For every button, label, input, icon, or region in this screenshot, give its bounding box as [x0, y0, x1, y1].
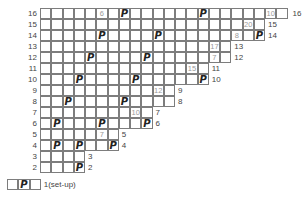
chart-cell	[153, 19, 164, 30]
row-label: 16	[293, 8, 302, 19]
chart-cell	[51, 63, 62, 74]
stitch-count: 10	[131, 109, 139, 117]
chart-cell	[96, 41, 107, 52]
row-label-left: 9	[33, 85, 37, 96]
chart-cell	[40, 129, 51, 140]
stitch-count: 7	[100, 131, 104, 139]
chart-cell	[85, 85, 96, 96]
chart-cell	[130, 52, 141, 63]
chart-cell	[209, 30, 220, 41]
chart-cell	[198, 63, 209, 74]
stitch-symbol-icon: P	[76, 141, 83, 151]
chart-cell	[141, 19, 152, 30]
chart-cell	[108, 107, 119, 118]
chart-cell	[141, 63, 152, 74]
chart-cell	[141, 74, 152, 85]
chart-cell	[175, 8, 186, 19]
chart-cell	[51, 129, 62, 140]
stitch-symbol-icon: P	[199, 75, 206, 85]
chart-cell	[108, 118, 119, 129]
stitch-symbol-icon: P	[121, 9, 128, 19]
row-label-left: 2	[33, 162, 37, 173]
chart-cell	[63, 63, 74, 74]
chart-cell	[85, 129, 96, 140]
chart-cell	[40, 30, 51, 41]
chart-cell	[40, 107, 51, 118]
chart-cell: 10	[265, 8, 276, 19]
stitch-symbol-icon: P	[76, 75, 83, 85]
chart-cell	[108, 52, 119, 63]
chart-cell	[74, 85, 85, 96]
chart-cell	[108, 19, 119, 30]
row-label-left: 16	[28, 8, 37, 19]
chart-cell	[40, 63, 51, 74]
chart-cell	[51, 96, 62, 107]
chart-cell	[175, 30, 186, 41]
chart-cell: P	[51, 140, 62, 151]
chart-cell	[74, 52, 85, 63]
chart-cell	[231, 8, 242, 19]
chart-cell	[164, 96, 175, 107]
chart-cell	[153, 8, 164, 19]
row-label-left: 4	[33, 140, 37, 151]
stitch-count: 17	[210, 43, 218, 51]
chart-cell	[209, 19, 220, 30]
row-label: 9	[178, 85, 182, 96]
chart-cell	[51, 107, 62, 118]
chart-cell: 12	[153, 85, 164, 96]
chart-cell	[186, 41, 197, 52]
row-label-left: 15	[28, 19, 37, 30]
chart-cell	[40, 118, 51, 129]
chart-cell: 7	[96, 129, 107, 140]
row-label: 11	[212, 63, 220, 74]
chart-cell	[220, 19, 231, 30]
chart-cell	[153, 63, 164, 74]
chart-cell	[119, 63, 130, 74]
chart-cell	[63, 8, 74, 19]
chart-cell	[96, 74, 107, 85]
chart-cell	[74, 8, 85, 19]
chart-cell	[108, 74, 119, 85]
chart-cell	[130, 118, 141, 129]
chart-cell	[96, 140, 107, 151]
chart-cell	[96, 63, 107, 74]
stitch-count: 10	[266, 10, 274, 18]
chart-cell	[186, 74, 197, 85]
stitch-symbol-icon: P	[199, 9, 206, 19]
chart-cell	[175, 63, 186, 74]
chart-cell	[175, 41, 186, 52]
chart-cell	[153, 41, 164, 52]
row-label: 3	[88, 151, 92, 162]
chart-cell	[108, 63, 119, 74]
stitch-symbol-icon: P	[154, 31, 161, 41]
stitch-count: 6	[100, 10, 104, 18]
row-label-left: 8	[33, 96, 37, 107]
chart-cell	[175, 74, 186, 85]
chart-cell	[63, 151, 74, 162]
stitch-count: 15	[188, 65, 196, 73]
row-label: 5	[122, 129, 126, 140]
chart-cell	[198, 19, 209, 30]
chart-cell	[63, 118, 74, 129]
chart-cell	[74, 96, 85, 107]
chart-cell	[63, 74, 74, 85]
chart-cell	[96, 52, 107, 63]
chart-cell	[164, 30, 175, 41]
chart-cell: 8	[231, 30, 242, 41]
stitch-symbol-icon: P	[98, 119, 105, 129]
chart-cell	[85, 74, 96, 85]
chart-cell	[63, 107, 74, 118]
stitch-symbol-icon: P	[53, 141, 60, 151]
chart-cell	[51, 8, 62, 19]
chart-cell: P	[141, 52, 152, 63]
chart-cell	[96, 19, 107, 30]
chart-cell	[164, 85, 175, 96]
chart-cell	[153, 74, 164, 85]
chart-cell	[198, 52, 209, 63]
chart-cell: P	[130, 74, 141, 85]
chart-cell: P	[63, 96, 74, 107]
chart-cell	[186, 19, 197, 30]
chart-cell	[119, 118, 130, 129]
stitch-symbol-icon: P	[109, 141, 116, 151]
chart-cell: P	[96, 30, 107, 41]
